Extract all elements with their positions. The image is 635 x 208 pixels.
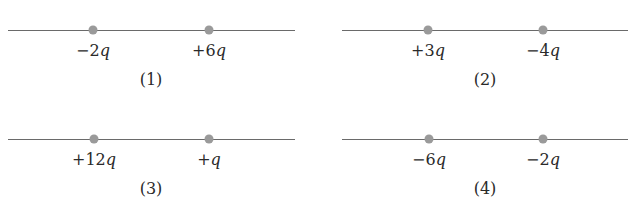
charge-dot bbox=[539, 26, 548, 35]
panel-caption: (4) bbox=[474, 181, 497, 197]
charge-dot bbox=[539, 135, 548, 144]
charge-label: −6q bbox=[412, 152, 446, 168]
charge-dot bbox=[424, 26, 433, 35]
charge-dot bbox=[425, 135, 434, 144]
axis-line bbox=[8, 139, 295, 140]
charge-label: −4q bbox=[526, 43, 560, 59]
charge-label: +3q bbox=[411, 43, 445, 59]
charge-label: +q bbox=[197, 152, 221, 168]
charge-dot bbox=[205, 135, 214, 144]
panel-caption: (3) bbox=[140, 181, 163, 197]
axis-line bbox=[342, 30, 628, 31]
charge-label: −2q bbox=[526, 152, 560, 168]
axis-line bbox=[342, 139, 628, 140]
panel-4: −6q −2q (4) bbox=[0, 0, 317, 104]
charge-dot bbox=[90, 135, 99, 144]
panel-caption: (2) bbox=[474, 72, 497, 88]
charge-label: +12q bbox=[72, 152, 116, 168]
